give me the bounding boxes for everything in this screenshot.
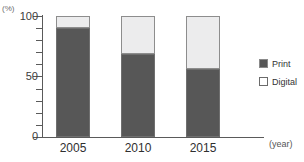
legend-label-digital: Digital [272,77,297,87]
chart-screenshot: (%) 100 50 0 2005 2010 2015 (year) [0,0,304,162]
x-label-2010: 2010 [103,141,173,155]
bar-2005-digital [56,16,90,28]
y-label-100: 100 [20,11,38,22]
x-axis-title: (year) [269,139,293,150]
x-label-2015: 2015 [168,141,238,155]
bar-2005-print [56,28,90,137]
y-axis-unit-label: (%) [2,4,14,13]
legend-item-print[interactable]: Print [259,56,297,71]
print-swatch-icon [259,59,268,68]
legend-label-print: Print [272,59,291,69]
legend-item-digital[interactable]: Digital [259,74,297,89]
y-label-50: 50 [26,71,38,82]
bar-2010-digital [121,16,155,54]
x-label-2005: 2005 [38,141,108,155]
digital-swatch-icon [259,77,268,86]
cut-off-title [62,0,238,5]
chart-legend: Print Digital [259,56,297,92]
bar-2015-digital [186,16,220,69]
bar-2015-print [186,69,220,137]
bar-2010-print [121,54,155,138]
plot-area [42,16,240,137]
x-axis-line [42,137,264,138]
